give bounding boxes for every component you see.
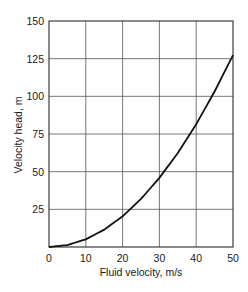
x-tick-label: 20: [117, 252, 129, 264]
y-axis-label: Velocity head, m: [12, 96, 24, 173]
velocity-head-curve: [49, 55, 233, 247]
x-tick-labels: 01020304050: [46, 252, 239, 264]
grid-lines: [49, 21, 233, 247]
x-tick-label: 0: [46, 252, 52, 264]
x-tick-label: 40: [190, 252, 202, 264]
x-tick-label: 50: [227, 252, 239, 264]
velocity-head-chart: 01020304050 255075100125150 Fluid veloci…: [0, 0, 248, 292]
x-tick-label: 10: [80, 252, 92, 264]
y-tick-label: 150: [26, 15, 44, 27]
y-tick-label: 25: [32, 203, 44, 215]
x-axis-label: Fluid velocity, m/s: [100, 266, 183, 278]
x-tick-label: 30: [154, 252, 166, 264]
y-tick-label: 75: [32, 128, 44, 140]
y-tick-labels: 255075100125150: [26, 15, 44, 215]
y-tick-label: 100: [26, 90, 44, 102]
y-tick-label: 50: [32, 166, 44, 178]
y-tick-label: 125: [26, 53, 44, 65]
